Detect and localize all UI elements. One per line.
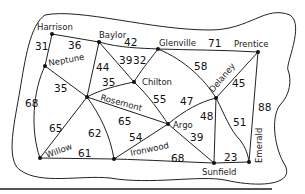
- node-neptune: [43, 64, 47, 68]
- graph-diagram: Harrison Baylor Neptune Glenville Prenti…: [0, 0, 305, 194]
- weight-delaney-sunfield: 48: [200, 110, 213, 122]
- node-rosemont: [85, 95, 89, 99]
- edge-delaney-sunfield: [214, 98, 216, 163]
- label-prentice: Prentice: [234, 39, 269, 49]
- weight-neptune-rosemont: 35: [54, 82, 67, 94]
- weight-sunfield-emerald: 23: [224, 151, 237, 163]
- weight-baylor-glenville: 42: [124, 36, 137, 48]
- label-baylor: Baylor: [99, 30, 127, 40]
- label-neptune: Neptune: [48, 52, 86, 68]
- weight-prentice-delaney: 45: [232, 77, 245, 89]
- label-chilton: Chilton: [142, 77, 172, 87]
- weight-harrison-baylor: 36: [68, 39, 82, 51]
- edge-neptune-willow: [34, 66, 45, 158]
- node-ironwood: [112, 157, 116, 161]
- weight-glenville-delaney: 58: [194, 60, 207, 72]
- weight-rosemont-ironwood: 62: [88, 127, 101, 139]
- weight-willow-ironwood: 61: [78, 147, 91, 159]
- node-emerald: [247, 160, 251, 164]
- label-sunfield: Sunfield: [202, 167, 237, 177]
- node-delaney: [214, 96, 218, 100]
- weight-chilton-rosemont: 35: [102, 76, 115, 88]
- node-sunfield: [212, 161, 216, 165]
- label-willow: Willow: [44, 141, 73, 160]
- label-argo: Argo: [173, 120, 193, 130]
- node-prentice: [256, 50, 260, 54]
- label-emerald: Emerald: [254, 128, 264, 163]
- node-chilton: [132, 80, 136, 84]
- node-baylor: [97, 40, 101, 44]
- edge-ironwood-sunfield: [114, 159, 214, 163]
- edge-glenville-prentice: [158, 49, 258, 52]
- weight-harrison-neptune: 31: [35, 40, 48, 52]
- weight-argo-sunfield: 39: [190, 131, 203, 143]
- weight-baylor-rosemont: 44: [96, 61, 110, 73]
- node-willow: [38, 156, 42, 160]
- label-glenville: Glenville: [159, 38, 196, 48]
- label-rosemont: Rosemont: [99, 92, 143, 113]
- weight-baylor-chilton: 39: [119, 54, 132, 66]
- weight-argo-delaney: 47: [180, 95, 193, 107]
- node-harrison: [50, 32, 54, 36]
- weight-glenville-prentice: 71: [208, 37, 221, 49]
- weight-ironwood-sunfield: 68: [171, 152, 184, 164]
- edge-glenville-delaney: [158, 49, 216, 98]
- node-argo: [166, 122, 170, 126]
- weight-neptune-willow: 68: [25, 97, 38, 109]
- bottom-rule: [0, 188, 272, 190]
- weight-delaney-emerald: 51: [233, 116, 246, 128]
- weight-glenville-chilton: 32: [133, 54, 146, 66]
- weight-rosemont-willow: 65: [49, 122, 62, 134]
- label-harrison: Harrison: [37, 22, 73, 32]
- weight-rosemont-argo: 65: [118, 115, 131, 127]
- weight-chilton-argo: 55: [153, 93, 166, 105]
- weight-ironwood-argo: 54: [129, 131, 143, 143]
- weight-prentice-emerald: 88: [258, 101, 271, 113]
